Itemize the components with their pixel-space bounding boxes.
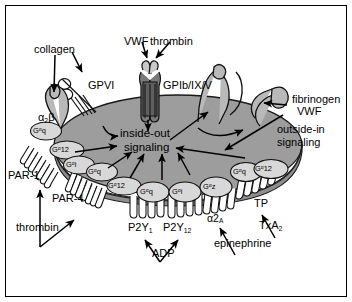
g-protein-label-g-a2a-z: Gαz [203, 182, 215, 191]
gp-post: i [75, 160, 77, 169]
label-collagen: collagen [34, 44, 75, 55]
gp-post: 12 [117, 181, 125, 190]
txa2-base: TxA [259, 219, 279, 231]
gp-post: 12 [61, 145, 69, 154]
label-outside-in-2: signaling [277, 137, 320, 148]
p2y12-sub: 12 [184, 227, 192, 234]
g-protein-label-g-p2y12-i: Gαi [172, 187, 182, 196]
gp-post: z [212, 182, 216, 191]
a2b1-beta: β [48, 111, 54, 123]
g-protein-label-g-tp-12: Gα12 [255, 164, 272, 173]
label-outside-in-1: outside-in [277, 124, 325, 135]
gp-post: q [242, 167, 246, 176]
label-gpib-ix-v: GPIb/IX/V [163, 80, 212, 91]
gp-post: q [149, 187, 153, 196]
arrow-collagen-integrin [54, 55, 55, 92]
label-alpha2a: α2A [207, 213, 223, 225]
label-txa2: TxA2 [259, 220, 282, 232]
label-fibrinogen: fibrinogen [292, 94, 340, 105]
receptor-gpib-ix-v [140, 61, 161, 122]
txa2-sub: 2 [279, 225, 283, 232]
label-vwf-top: VWF [124, 36, 148, 47]
label-p2y12: P2Y12 [163, 222, 191, 234]
label-p2y1: P2Y1 [128, 222, 153, 234]
label-alpha2beta1: α2β [38, 112, 54, 124]
gp-post: 12 [264, 164, 272, 173]
label-vwf-right: VWF [297, 106, 321, 117]
label-par1: PAR-1 [8, 170, 40, 181]
label-inside-out-1: inside-out [120, 128, 170, 140]
a2a-base: α2 [207, 212, 219, 224]
label-epinephrine: epinephrine [214, 238, 272, 249]
g-protein-label-g-tp-q: Gαq [233, 167, 246, 176]
gp-post: q [97, 167, 101, 176]
label-thrombin-top: thrombin [150, 36, 193, 47]
g-protein-label-g-par4-q: Gαq [88, 167, 101, 176]
label-tp: TP [254, 198, 268, 209]
g-protein-label-g-par4-12: Gα12 [108, 181, 125, 190]
arrow-collagen-gpvi [72, 52, 82, 72]
p2y1-base: P2Y [128, 221, 149, 233]
gp-post: q [42, 126, 46, 135]
label-adp: ADP [152, 248, 175, 259]
g-protein-label-g-p2y1-q: Gαq [140, 187, 153, 196]
gp-post: i [181, 187, 183, 196]
g-protein-label-g-par1-i: Gαi [66, 160, 76, 169]
label-inside-out-2: signaling [124, 142, 169, 154]
g-protein-label-g-par1-12: Gα12 [52, 145, 69, 154]
label-par4: PAR-4 [52, 193, 84, 204]
platelet-signaling-figure: collagen VWF thrombin GPVI GPIb/IX/V α2β… [0, 0, 352, 302]
label-thrombin-left: thrombin [16, 222, 59, 233]
p2y1-sub: 1 [149, 227, 153, 234]
p2y12-base: P2Y [163, 221, 184, 233]
a2a-sub: A [219, 217, 223, 224]
label-gpvi: GPVI [88, 80, 114, 91]
g-protein-label-g-par1-q: Gαq [33, 126, 46, 135]
